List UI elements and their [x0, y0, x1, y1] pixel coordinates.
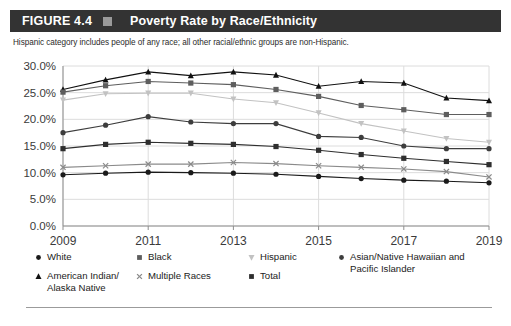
data-point-marker — [188, 119, 193, 124]
circle-marker-icon — [337, 253, 346, 262]
data-point-marker — [273, 121, 278, 126]
data-point-marker — [188, 141, 193, 146]
figure-note: Hispanic category includes people of any… — [13, 38, 349, 47]
x-axis-tick-label: 2013 — [220, 234, 247, 248]
legend-item[interactable]: White — [34, 251, 72, 263]
chart-plot-area: 0.0%5.0%10.0%15.0%20.0%25.0%30.0%2009201… — [0, 48, 511, 248]
data-point-marker — [146, 79, 151, 84]
line-chart: 0.0%5.0%10.0%15.0%20.0%25.0%30.0%2009201… — [0, 48, 511, 248]
triangle-down-marker-icon — [247, 253, 256, 262]
square-marker-icon — [247, 272, 256, 281]
legend-item[interactable]: Hispanic — [247, 251, 297, 263]
cross-marker-icon — [135, 272, 144, 281]
legend-item[interactable]: Black — [135, 251, 171, 263]
y-axis-tick-label: 25.0% — [23, 87, 56, 99]
legend-item-label: Total — [260, 270, 280, 282]
series-line — [63, 81, 489, 114]
data-point-marker — [231, 121, 236, 126]
data-point-marker — [444, 179, 449, 184]
x-axis-tick-label: 2011 — [135, 234, 161, 248]
data-point-marker — [103, 123, 108, 128]
legend-item-label: Hispanic — [260, 251, 297, 263]
x-axis-tick-label: 2015 — [305, 234, 332, 248]
legend-item[interactable]: Multiple Races — [135, 270, 211, 282]
data-point-marker — [359, 103, 364, 108]
y-axis-tick-label: 15.0% — [23, 140, 56, 152]
data-point-marker — [60, 98, 66, 104]
footer-divider — [26, 307, 492, 308]
data-point-marker — [359, 176, 364, 181]
data-point-marker — [146, 114, 151, 119]
data-point-marker — [316, 134, 321, 139]
legend-item[interactable]: Total — [247, 270, 280, 282]
data-point-marker — [103, 83, 108, 88]
legend-item-label: Black — [148, 251, 171, 263]
data-point-marker — [103, 142, 108, 147]
data-point-marker — [273, 172, 278, 177]
data-point-marker — [231, 171, 236, 176]
data-point-marker — [486, 180, 491, 185]
chart-legend: WhiteBlackHispanicAsian/Native Hawaiian … — [0, 249, 511, 297]
data-point-marker — [60, 146, 65, 151]
data-point-marker — [401, 143, 406, 148]
y-axis-tick-label: 5.0% — [30, 193, 56, 205]
data-point-marker — [444, 112, 449, 117]
x-axis-tick-label: 2017 — [390, 234, 417, 248]
data-point-marker — [146, 170, 151, 175]
legend-item[interactable]: American Indian/ Alaska Native — [34, 270, 119, 293]
data-point-marker — [60, 172, 65, 177]
y-axis-tick-label: 20.0% — [23, 113, 56, 125]
data-point-marker — [316, 94, 321, 99]
data-point-marker — [359, 135, 364, 140]
data-point-marker — [231, 82, 236, 87]
legend-item-label: Multiple Races — [148, 270, 211, 282]
data-point-marker — [231, 142, 236, 147]
x-axis-tick-label: 2019 — [476, 234, 503, 248]
square-bullet-icon — [103, 17, 112, 26]
data-point-marker — [316, 174, 321, 179]
data-point-marker — [401, 178, 406, 183]
data-point-marker — [401, 156, 406, 161]
data-point-marker — [60, 130, 65, 135]
legend-item-label: White — [47, 251, 72, 263]
data-point-marker — [60, 90, 65, 95]
legend-item[interactable]: Asian/Native Hawaiian and Pacific Island… — [337, 251, 465, 274]
legend-item-label: Asian/Native Hawaiian and Pacific Island… — [350, 251, 465, 274]
data-point-marker — [486, 146, 491, 151]
data-point-marker — [146, 140, 151, 145]
data-point-marker — [273, 87, 278, 92]
data-point-marker — [273, 144, 278, 149]
y-axis-tick-label: 30.0% — [23, 60, 56, 72]
triangle-up-marker-icon — [34, 272, 43, 281]
data-point-marker — [103, 171, 108, 176]
data-point-marker — [188, 80, 193, 85]
square-marker-icon — [135, 253, 144, 262]
circle-marker-icon — [34, 253, 43, 262]
figure-header-bar: FIGURE 4.4 Poverty Rate by Race/Ethnicit… — [10, 10, 501, 32]
data-point-marker — [316, 148, 321, 153]
y-axis-tick-label: 0.0% — [30, 220, 56, 232]
data-point-marker — [486, 112, 491, 117]
legend-item-label: American Indian/ Alaska Native — [47, 270, 119, 293]
y-axis-tick-label: 10.0% — [23, 167, 56, 179]
data-point-marker — [188, 170, 193, 175]
figure-container: FIGURE 4.4 Poverty Rate by Race/Ethnicit… — [0, 0, 511, 326]
data-point-marker — [401, 107, 406, 112]
data-point-marker — [444, 159, 449, 164]
data-point-marker — [444, 146, 449, 151]
figure-number-label: FIGURE 4.4 — [22, 14, 92, 28]
figure-title: Poverty Rate by Race/Ethnicity — [130, 14, 317, 28]
data-point-marker — [486, 162, 491, 167]
x-axis-tick-label: 2009 — [50, 234, 77, 248]
data-point-marker — [359, 152, 364, 157]
